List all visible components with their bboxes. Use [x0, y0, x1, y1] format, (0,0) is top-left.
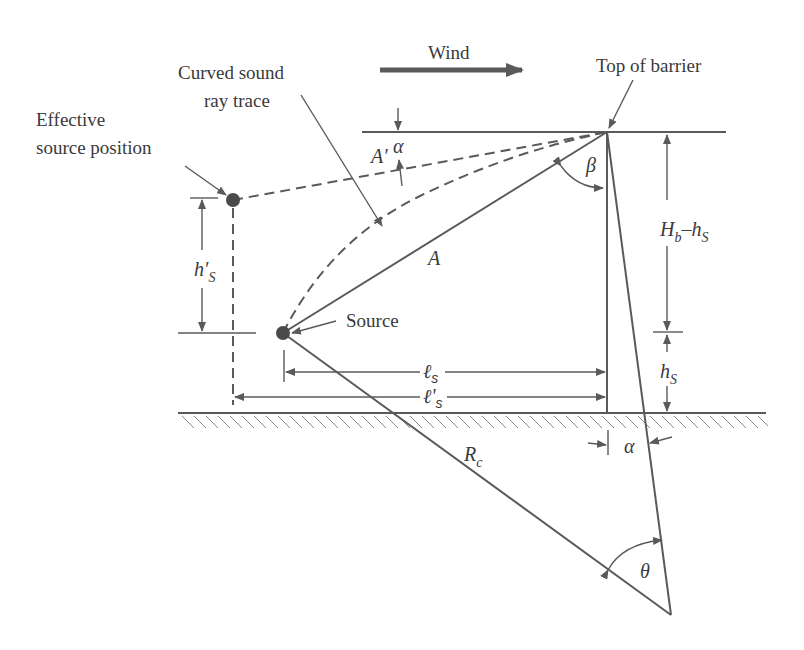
barrier-diagram: Wind Top of barrier Curved sound ray tra… — [0, 0, 804, 650]
alpha-top-symbol: α — [393, 135, 404, 157]
alpha-bottom-arrow-left — [588, 443, 606, 445]
wind-label: Wind — [428, 42, 470, 63]
hs-prime-dimension — [178, 198, 256, 333]
effective-source-dot — [226, 193, 240, 207]
beta-arc — [561, 166, 603, 188]
effective-source-label-line1: Effective — [36, 109, 105, 130]
source-dot — [276, 326, 290, 340]
hs-prime-symbol: h′S — [194, 258, 215, 285]
effective-source-label-line2: source position — [36, 137, 152, 158]
alpha-top-arrow-up — [399, 160, 402, 186]
ls-prime-symbol: ℓ's — [423, 385, 443, 411]
curved-ray-label-line2: ray trace — [204, 90, 270, 111]
ls-dimension — [284, 350, 605, 382]
hb-minus-hs-symbol: Hb–hS — [659, 218, 708, 245]
ground — [178, 413, 768, 428]
diagram-canvas: Wind Top of barrier Curved sound ray tra… — [0, 0, 804, 650]
source-label: Source — [346, 310, 399, 331]
hs-symbol: hS — [660, 360, 677, 387]
curved-ray-leader — [301, 95, 382, 226]
radius-rc-line — [283, 333, 671, 615]
ls-symbol: ℓs — [423, 360, 438, 386]
alpha-bottom-arrow-right — [650, 437, 672, 443]
theta-arc — [608, 540, 662, 570]
a-prime-symbol: A′ — [369, 145, 388, 167]
top-of-barrier-leader — [609, 80, 633, 128]
effective-source-leader — [185, 166, 226, 195]
curved-ray-label-line1: Curved sound — [178, 62, 285, 83]
theta-symbol: θ — [640, 560, 650, 582]
beta-symbol: β — [585, 154, 596, 177]
alpha-bottom-symbol: α — [624, 435, 635, 457]
a-symbol: A — [426, 247, 441, 269]
top-of-barrier-label: Top of barrier — [596, 55, 702, 76]
